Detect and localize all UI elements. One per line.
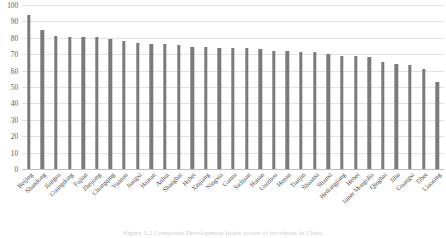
bar-slot — [90, 0, 104, 169]
bar — [177, 45, 180, 169]
bar-slot — [36, 0, 50, 169]
x-axis-tick: Sichuan — [240, 170, 254, 222]
x-axis-tick: Yunnan — [117, 170, 131, 222]
figure-caption: Figure 3.2 Composite Development Index s… — [0, 229, 446, 238]
y-axis-tick-label: 90 — [11, 17, 18, 26]
bar — [299, 52, 302, 169]
bar — [327, 54, 330, 169]
bar-slot — [253, 0, 267, 169]
bar — [95, 37, 98, 169]
bar — [163, 44, 166, 169]
y-axis-tick-label: 0 — [14, 165, 18, 174]
bar-slot — [104, 0, 118, 169]
bar-slot — [63, 0, 77, 169]
bar — [109, 39, 112, 169]
bar — [272, 51, 275, 169]
bar-slot — [49, 0, 63, 169]
bar-slot — [145, 0, 159, 169]
x-axis-tick: Henan — [281, 170, 295, 222]
y-axis-tick-label: 30 — [11, 115, 18, 124]
bar — [245, 48, 248, 169]
x-axis-tick: Liaoning — [430, 170, 444, 222]
bar-slot — [281, 0, 295, 169]
bar-slot — [117, 0, 131, 169]
x-axis-tick: Jilin — [390, 170, 404, 222]
bar — [82, 37, 85, 169]
bar-slot — [308, 0, 322, 169]
bar — [435, 82, 438, 169]
x-axis-tick: Shandong — [36, 170, 50, 222]
bar-slot — [158, 0, 172, 169]
bar-slot — [321, 0, 335, 169]
bar-slot — [172, 0, 186, 169]
y-axis: 0102030405060708090100 — [0, 0, 18, 172]
y-axis-tick-label: 60 — [11, 66, 18, 75]
bar — [68, 37, 71, 169]
bar — [422, 69, 425, 169]
bar — [41, 30, 44, 169]
y-axis-tick-label: 100 — [7, 1, 18, 10]
bar-slot — [362, 0, 376, 169]
bar — [259, 49, 262, 169]
bar — [340, 56, 343, 169]
bar-slot — [376, 0, 390, 169]
bar-slot — [131, 0, 145, 169]
bar-slot — [417, 0, 431, 169]
bar — [395, 64, 398, 169]
x-axis-tick: Fujian — [76, 170, 90, 222]
bar — [136, 43, 139, 169]
bar-slot — [349, 0, 363, 169]
bar — [54, 36, 57, 169]
x-axis-tick: Guangdong — [63, 170, 77, 222]
bar-slot — [240, 0, 254, 169]
y-axis-tick-label: 70 — [11, 50, 18, 59]
y-axis-tick-label: 80 — [11, 33, 18, 42]
bar-slot — [199, 0, 213, 169]
x-axis-tick: Tibet — [417, 170, 431, 222]
chart-plot-area: 0102030405060708090100 — [0, 0, 446, 172]
bar — [231, 48, 234, 169]
x-axis-category-labels: BeijingShandongJiangsuGuangdongFujianZhe… — [22, 170, 444, 222]
figure-container: 0102030405060708090100 BeijingShandongJi… — [0, 0, 446, 238]
bar — [313, 52, 316, 169]
bar-slot — [185, 0, 199, 169]
bar — [190, 47, 193, 169]
bar — [286, 51, 289, 169]
bar-slot — [226, 0, 240, 169]
bar-slot — [390, 0, 404, 169]
bar — [218, 48, 221, 169]
bar-slot — [267, 0, 281, 169]
bar — [408, 65, 411, 169]
x-axis-tick: Hainan — [145, 170, 159, 222]
y-axis-tick-label: 40 — [11, 99, 18, 108]
bar — [354, 56, 357, 169]
bar-slot — [294, 0, 308, 169]
bar — [27, 15, 30, 169]
x-axis-tick: Inner Mongolia — [362, 170, 376, 222]
bar — [204, 47, 207, 169]
x-axis-tick: Zhejiang — [90, 170, 104, 222]
bar — [381, 62, 384, 169]
bar — [367, 57, 370, 169]
bar-slot — [22, 0, 36, 169]
bar — [150, 44, 153, 169]
bar-slot — [335, 0, 349, 169]
x-axis-tick: Tianjin — [294, 170, 308, 222]
x-axis-tick: Gansu — [226, 170, 240, 222]
y-axis-tick-label: 50 — [11, 83, 18, 92]
bar — [122, 41, 125, 169]
bar-slot — [403, 0, 417, 169]
y-axis-tick-label: 10 — [11, 148, 18, 157]
x-axis-tick: Jiangxi — [131, 170, 145, 222]
bar-slot — [430, 0, 444, 169]
bar-slot — [76, 0, 90, 169]
bar-series — [22, 0, 444, 169]
bar-slot — [213, 0, 227, 169]
y-axis-tick-label: 20 — [11, 132, 18, 141]
